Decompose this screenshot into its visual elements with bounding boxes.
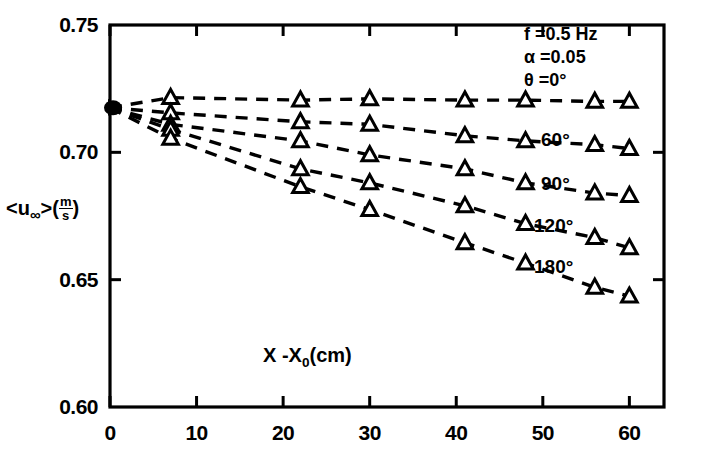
annotation-frequency: f =0.5 Hz [524, 24, 598, 45]
x-tick-label-60: 60 [618, 421, 640, 445]
annotation-amplitude-symbol: α [524, 47, 535, 67]
chart-figure: 0.75 0.70 0.65 0.60 0 10 20 30 40 50 60 … [0, 0, 714, 466]
y-tick-label-0.65: 0.65 [14, 268, 98, 292]
x-tick-label-40: 40 [445, 421, 467, 445]
plot-canvas [0, 0, 714, 466]
y-axis-title-unit-numerator: m [59, 195, 73, 209]
x-axis-title-x: X - [263, 344, 289, 366]
series-label-60: 60° [541, 129, 570, 151]
x-axis-title-unit: (cm) [309, 344, 351, 366]
y-axis-title-units-fraction: ms [59, 195, 73, 223]
annotation-amplitude-value: 0.05 [551, 47, 586, 67]
annotation-amplitude-equals: = [540, 47, 551, 67]
y-tick-label-0.70: 0.70 [14, 140, 98, 164]
x-tick-label-10: 10 [185, 421, 207, 445]
x-tick-label-30: 30 [359, 421, 381, 445]
x-tick-label-0: 0 [104, 421, 115, 445]
x-axis-title: X -X0(cm) [263, 344, 352, 370]
x-axis-title-x0: X [289, 344, 302, 366]
y-axis-title-paren-end: ) [73, 197, 80, 219]
y-axis-title: <u∞>(ms) [6, 196, 79, 224]
y-tick-label-0.75: 0.75 [14, 13, 98, 37]
y-tick-label-0.60: 0.60 [14, 395, 98, 419]
x-tick-label-50: 50 [532, 421, 554, 445]
x-tick-label-20: 20 [272, 421, 294, 445]
annotation-theta-value: 0° [549, 70, 566, 90]
annotation-theta: θ =0° [524, 70, 566, 91]
y-axis-title-close: >( [41, 197, 59, 219]
annotation-frequency-equals: = [535, 24, 546, 44]
series-label-120: 120° [534, 215, 573, 237]
y-axis-title-unit-denominator: s [59, 209, 73, 222]
series-label-90: 90° [541, 173, 570, 195]
y-axis-title-open: <u [6, 197, 30, 219]
y-axis-title-infinity-subscript: ∞ [30, 206, 41, 223]
annotation-theta-equals: = [539, 70, 550, 90]
annotation-amplitude: α =0.05 [524, 47, 586, 68]
annotation-theta-symbol: θ [524, 70, 534, 90]
annotation-frequency-symbol: f [524, 24, 530, 44]
annotation-frequency-value: 0.5 Hz [546, 24, 598, 44]
series-label-180: 180° [534, 256, 573, 278]
